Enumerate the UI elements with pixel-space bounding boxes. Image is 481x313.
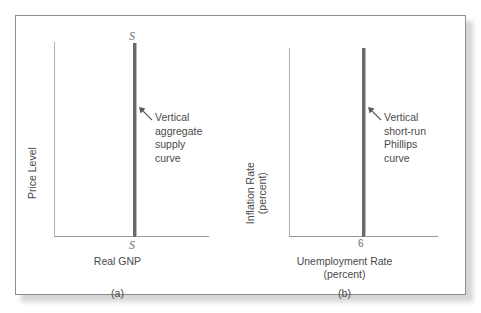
panel-b-y-axis-title-line2: (percent) (256, 162, 268, 224)
aggregate-supply-curve (133, 43, 136, 237)
panel-b-caption: (b) (232, 287, 457, 299)
panel-b-x-axis-title: Unemployment Rate (percent) (232, 255, 457, 281)
panel-a-annotation: Vertical aggregate supply curve (155, 111, 202, 166)
panel-b-annotation: Vertical short-run Phillips curve (384, 111, 426, 166)
panel-b-y-axis (289, 48, 290, 236)
arrow-up-left-icon (368, 107, 382, 121)
panel-a-x-axis-title-line1: Real GNP (5, 255, 230, 268)
panel-b-y-axis-title: Inflation Rate (percent) (244, 162, 268, 224)
panel-a-caption: (a) (5, 287, 230, 299)
panel-a-curve-label-bottom: S (129, 239, 135, 251)
panel-b-x-axis-title-line2: (percent) (232, 268, 457, 281)
panel-a-x-axis (54, 236, 209, 237)
panel-a-x-axis-title: Real GNP (5, 255, 230, 268)
panel-a-y-axis (54, 42, 55, 236)
panel-b-x-axis-title-line1: Unemployment Rate (232, 255, 457, 268)
panel-b-x-tick-value: 6 (358, 239, 364, 249)
figure-container: S S Price Level Real GNP Vertical aggreg… (0, 0, 481, 313)
panel-a-curve-label-top: S (129, 30, 135, 42)
panel-b-y-axis-title-line1: Inflation Rate (244, 162, 256, 224)
short-run-phillips-curve (362, 48, 365, 237)
panel-b: 6 Inflation Rate (percent) Unemployment … (246, 15, 471, 295)
arrow-up-left-icon (139, 107, 153, 121)
panel-a-y-axis-title: Price Level (26, 147, 38, 199)
panel-a: S S Price Level Real GNP Vertical aggreg… (15, 15, 240, 295)
